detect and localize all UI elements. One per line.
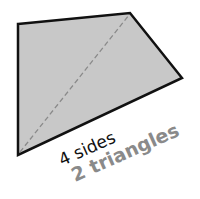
quadrilateral-diagram: 4 sides 2 triangles bbox=[0, 0, 200, 199]
diagram-canvas: 4 sides 2 triangles bbox=[0, 0, 200, 199]
